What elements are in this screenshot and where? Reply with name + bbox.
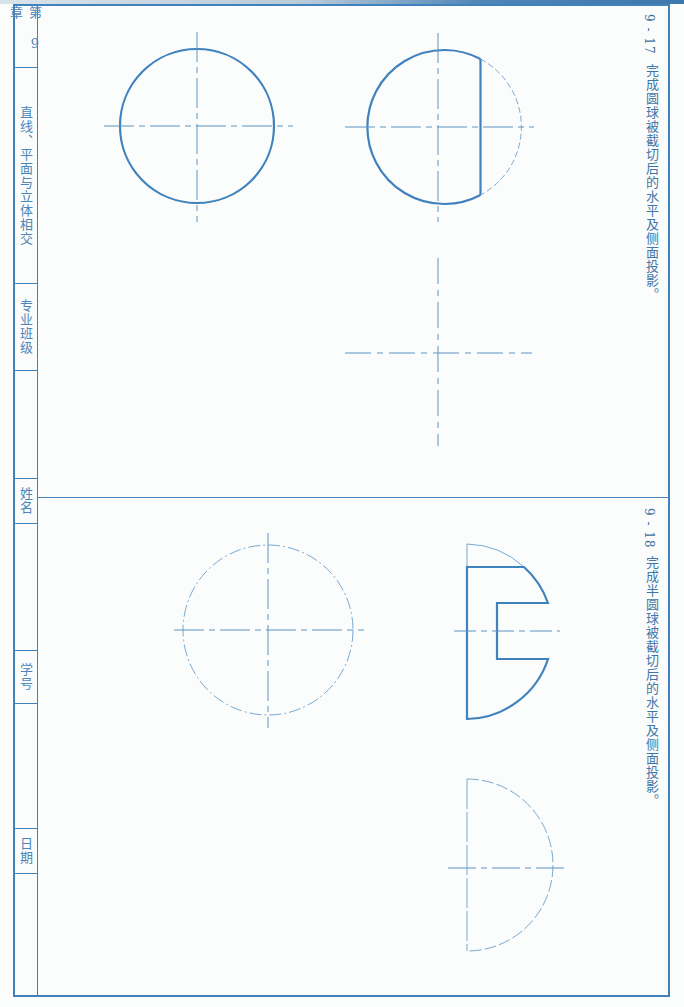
- sphere-cut-view: [345, 33, 534, 222]
- sphere-view-left: [104, 32, 293, 222]
- centerlines-empty-view: [345, 258, 532, 446]
- technical-drawings: [0, 0, 684, 1007]
- half-sphere-top-view: [174, 533, 364, 728]
- half-sphere-cut-view: [454, 544, 560, 719]
- half-sphere-side-view: [448, 779, 566, 951]
